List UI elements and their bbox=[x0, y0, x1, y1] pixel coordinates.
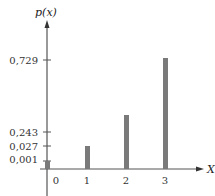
probability-distribution-chart: p(x) X 0,729 0,243 0,027 0,001 0 1 2 3 bbox=[0, 0, 215, 196]
y-axis-title: p(x) bbox=[35, 6, 57, 19]
x-tick-label: 3 bbox=[162, 175, 168, 186]
bar-x0 bbox=[45, 161, 50, 169]
y-tick-label: 0,027 bbox=[9, 141, 38, 152]
x-tick-label: 0 bbox=[53, 175, 59, 186]
bar-x2 bbox=[124, 115, 129, 169]
x-tick-label: 2 bbox=[123, 175, 129, 186]
x-tick-label: 1 bbox=[84, 175, 90, 186]
y-axis-arrow-icon bbox=[45, 20, 50, 28]
x-axis-arrow-icon bbox=[196, 167, 204, 172]
y-tick-label: 0,729 bbox=[9, 55, 38, 66]
y-tick-label: 0,243 bbox=[9, 127, 38, 138]
x-axis-title: X bbox=[206, 163, 215, 176]
bar-x1 bbox=[85, 146, 90, 169]
y-tick-label: 0,001 bbox=[9, 154, 38, 165]
bar-x3 bbox=[163, 58, 168, 169]
